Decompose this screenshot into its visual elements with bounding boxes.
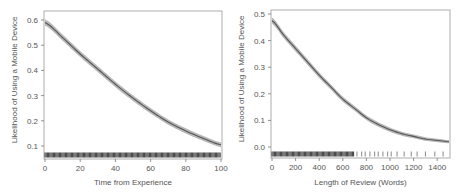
x-tick-label: 80 [181, 164, 190, 173]
x-tick-label: 1000 [381, 163, 399, 172]
x-tick-label: 1400 [428, 163, 446, 172]
rug-plot [45, 153, 220, 158]
x-axis-label: Length of Review (Words) [314, 178, 407, 187]
x-tick-label: 600 [336, 163, 350, 172]
fit-line [272, 21, 449, 142]
x-tick-label: 40 [111, 164, 120, 173]
plot-right: 0.00.10.20.30.40.50200400600800100012001… [230, 0, 461, 193]
y-tick-label: 0.2 [254, 90, 266, 99]
y-tick-label: 0.3 [27, 92, 39, 101]
y-tick-label: 0.2 [27, 117, 39, 126]
x-tick-label: 1200 [405, 163, 423, 172]
x-tick-label: 0 [43, 164, 48, 173]
x-tick-label: 200 [289, 163, 303, 172]
y-tick-label: 0.5 [27, 41, 39, 50]
y-tick-label: 0.1 [27, 142, 39, 151]
rug-plot [272, 152, 443, 157]
fit-line [45, 23, 221, 145]
y-tick-label: 0.3 [254, 63, 266, 72]
confidence-band [45, 19, 221, 147]
confidence-band [272, 17, 449, 143]
x-tick-label: 400 [313, 163, 327, 172]
x-tick-label: 100 [214, 164, 228, 173]
x-axis-label: Time from Experience [94, 178, 173, 187]
chart-time-from-experience: 0.10.20.30.40.50.6020406080100Time from … [0, 0, 230, 193]
y-axis-label: Likelihood of Using a Mobile Device [10, 16, 19, 143]
plot-left: 0.10.20.30.40.50.6020406080100Time from … [0, 0, 230, 193]
y-tick-label: 0.0 [254, 143, 266, 152]
x-tick-label: 60 [146, 164, 155, 173]
y-axis-label: Likelihood of Using a Mobile Device [237, 15, 246, 142]
x-tick-label: 0 [270, 163, 275, 172]
y-tick-label: 0.5 [254, 10, 266, 19]
chart-length-of-review: 0.00.10.20.30.40.50200400600800100012001… [230, 0, 461, 193]
plot-frame [271, 10, 450, 158]
y-tick-label: 0.6 [27, 16, 39, 25]
x-tick-label: 800 [360, 163, 374, 172]
x-tick-label: 20 [76, 164, 85, 173]
y-tick-label: 0.1 [254, 116, 266, 125]
y-tick-label: 0.4 [254, 37, 266, 46]
y-tick-label: 0.4 [27, 66, 39, 75]
